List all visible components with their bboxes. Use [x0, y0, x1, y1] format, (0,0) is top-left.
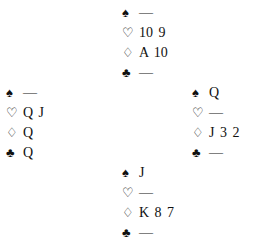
north-hearts: 10 9 [139, 23, 166, 43]
spade-icon: ♠ [122, 3, 139, 23]
west-hand: ♠ — ♡ Q J ♢ Q ♣ Q [6, 83, 44, 163]
club-icon: ♣ [122, 63, 139, 83]
east-diamonds-row: ♢ J 3 2 [192, 123, 239, 143]
club-icon: ♣ [192, 143, 209, 163]
spade-icon: ♠ [6, 83, 23, 103]
west-spades-row: ♠ — [6, 83, 44, 103]
south-spades: J [139, 163, 144, 183]
diamond-icon: ♢ [6, 123, 23, 143]
east-clubs: — [209, 143, 223, 163]
north-hearts-row: ♡ 10 9 [122, 23, 168, 43]
diamond-icon: ♢ [122, 43, 139, 63]
heart-icon: ♡ [6, 103, 23, 123]
west-hearts-row: ♡ Q J [6, 103, 44, 123]
heart-icon: ♡ [192, 103, 209, 123]
west-diamonds-row: ♢ Q [6, 123, 44, 143]
south-clubs: — [139, 223, 153, 243]
west-spades: — [23, 83, 37, 103]
east-clubs-row: ♣ — [192, 143, 239, 163]
west-clubs: Q [23, 143, 33, 163]
south-hearts: — [139, 183, 153, 203]
south-clubs-row: ♣ — [122, 223, 174, 243]
club-icon: ♣ [6, 143, 23, 163]
north-diamonds: A 10 [139, 43, 168, 63]
north-diamonds-row: ♢ A 10 [122, 43, 168, 63]
east-spades-row: ♠ Q [192, 83, 239, 103]
south-diamonds-row: ♢ K 8 7 [122, 203, 174, 223]
east-hearts: — [209, 103, 223, 123]
east-spades: Q [209, 83, 219, 103]
south-diamonds: K 8 7 [139, 203, 174, 223]
spade-icon: ♠ [122, 163, 139, 183]
heart-icon: ♡ [122, 183, 139, 203]
south-hearts-row: ♡ — [122, 183, 174, 203]
north-spades-row: ♠ — [122, 3, 168, 23]
south-hand: ♠ J ♡ — ♢ K 8 7 ♣ — [122, 163, 174, 243]
spade-icon: ♠ [192, 83, 209, 103]
south-spades-row: ♠ J [122, 163, 174, 183]
north-clubs: — [139, 63, 153, 83]
west-diamonds: Q [23, 123, 33, 143]
east-hand: ♠ Q ♡ — ♢ J 3 2 ♣ — [192, 83, 239, 163]
west-clubs-row: ♣ Q [6, 143, 44, 163]
north-hand: ♠ — ♡ 10 9 ♢ A 10 ♣ — [122, 3, 168, 83]
west-hearts: Q J [23, 103, 44, 123]
east-diamonds: J 3 2 [209, 123, 239, 143]
diamond-icon: ♢ [122, 203, 139, 223]
east-hearts-row: ♡ — [192, 103, 239, 123]
diamond-icon: ♢ [192, 123, 209, 143]
club-icon: ♣ [122, 223, 139, 243]
north-spades: — [139, 3, 153, 23]
north-clubs-row: ♣ — [122, 63, 168, 83]
heart-icon: ♡ [122, 23, 139, 43]
